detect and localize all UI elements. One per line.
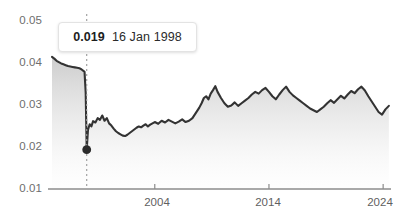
tooltip-date: 16 Jan 1998	[112, 30, 182, 44]
tooltip-value: 0.019	[73, 30, 105, 44]
y-axis-tick-1: 0.04	[2, 56, 42, 68]
y-axis-tick-4: 0.01	[2, 182, 42, 194]
timeseries-chart: 0.05 0.04 0.03 0.02 0.01 2004 2014 2024 …	[0, 0, 413, 220]
y-axis-tick-2: 0.03	[2, 98, 42, 110]
data-point-tooltip: 0.019 16 Jan 1998	[58, 22, 197, 52]
y-axis-tick-0: 0.05	[2, 14, 42, 26]
area-fill	[52, 57, 389, 189]
x-axis-tick-2004: 2004	[134, 196, 180, 208]
x-axis-tick-2014: 2014	[245, 196, 291, 208]
selected-point-marker[interactable]	[82, 145, 91, 154]
x-axis-tick-2024: 2024	[357, 196, 403, 208]
y-axis-tick-3: 0.02	[2, 140, 42, 152]
